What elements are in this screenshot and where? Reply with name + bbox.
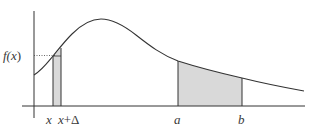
density-diagram: f(x) x x+Δ a b	[0, 0, 312, 130]
shaded-region-a-to-b	[178, 61, 242, 106]
shaded-strip-x-to-x-plus-delta	[53, 48, 61, 106]
x-tick-label: x	[45, 112, 52, 127]
x-plus-delta-tick-label: x+Δ	[57, 112, 79, 127]
f-of-x-label: f(x)	[3, 48, 21, 63]
a-tick-label: a	[174, 112, 181, 127]
b-tick-label: b	[238, 112, 245, 127]
density-curve	[34, 19, 304, 91]
